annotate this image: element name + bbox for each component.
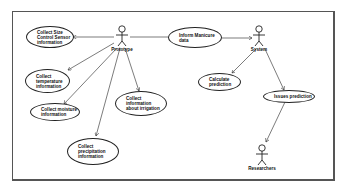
connector-uc8-researchers [266, 102, 285, 142]
usecase-collect-precipitation: Collect precipitation information [67, 138, 119, 165]
usecase-collect-moisture: Collect moisture information [30, 103, 80, 121]
usecase-issues-prediction: Issues prediction [263, 90, 315, 103]
actor-prototype-icon [116, 26, 128, 46]
usecase-label: Collect temperature information [36, 74, 63, 89]
usecase-label: Collect Size Control Sensor information [37, 30, 70, 45]
connector-system-uc8 [265, 49, 284, 90]
usecase-collect-irrigation: Collect information about irrigation [115, 91, 167, 116]
usecase-label: Inform Manicure data [179, 33, 215, 43]
connector-prototype-uc5 [125, 48, 139, 91]
actor-researchers-label: Researchers [248, 166, 276, 171]
usecase-label: Collect precipitation information [78, 144, 106, 159]
connector-system-uc7 [232, 49, 256, 73]
usecase-label: Collect information about irrigation [126, 96, 166, 111]
actor-system-label: System [251, 47, 267, 52]
actor-researchers-icon [256, 145, 268, 165]
usecase-collect-temperature: Collect temperature information [25, 69, 70, 93]
usecase-calculate-prediction: Calculate prediction [198, 73, 241, 91]
connector-prototype-uc4 [96, 48, 120, 136]
usecase-collect-size-control: Collect Size Control Sensor information [26, 26, 74, 48]
actor-system-icon [253, 26, 265, 46]
usecase-inform-manicure-data: Inform Manicure data [168, 27, 222, 48]
usecase-label: Calculate prediction [209, 77, 231, 87]
connector-prototype-uc2 [68, 43, 114, 70]
usecase-label: Collect moisture information [41, 107, 77, 117]
actor-prototype-label: Prototype [111, 47, 132, 52]
usecase-label: Issues prediction [274, 94, 312, 99]
